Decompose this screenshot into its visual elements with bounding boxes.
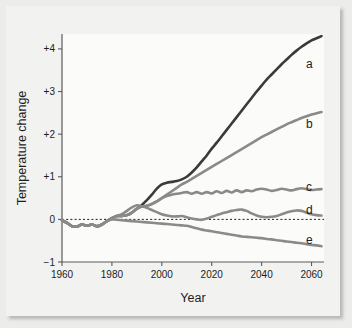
series-label-c: c: [306, 180, 312, 194]
x-tick-label: 1980: [101, 269, 124, 280]
series-label-d: d: [306, 203, 313, 217]
x-tick-label: 2060: [300, 269, 323, 280]
figure-container: −10+1+2+3+4 196019802000202020402060 abc…: [0, 0, 352, 328]
y-axis-title: Temperature change: [15, 91, 29, 206]
series-label-e: e: [306, 233, 313, 247]
x-tick-label: 2040: [250, 269, 273, 280]
x-tick-label: 2020: [201, 269, 224, 280]
series-label-b: b: [306, 117, 313, 131]
y-tick-label: +2: [44, 129, 56, 140]
x-tick-label: 1960: [51, 269, 74, 280]
x-tick-label: 2000: [151, 269, 174, 280]
series-label-a: a: [306, 57, 313, 71]
y-tick-label: −1: [44, 257, 56, 268]
x-axis-title: Year: [180, 291, 205, 305]
chart-card: −10+1+2+3+4 196019802000202020402060 abc…: [6, 6, 340, 316]
y-tick-label: +4: [44, 43, 56, 54]
y-tick-label: 0: [49, 214, 55, 225]
y-tick-label: +1: [44, 171, 56, 182]
y-axis-ticks: −10+1+2+3+4: [44, 43, 62, 267]
temperature-change-line-chart: −10+1+2+3+4 196019802000202020402060 abc…: [6, 6, 340, 316]
x-axis-ticks: 196019802000202020402060: [51, 262, 323, 280]
y-tick-label: +3: [44, 86, 56, 97]
